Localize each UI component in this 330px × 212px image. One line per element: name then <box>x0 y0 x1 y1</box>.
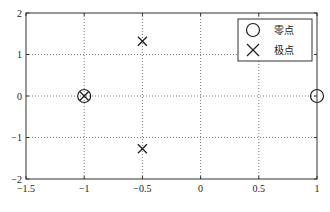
pole-zero-chart: −1.5−1−0.500.51−2−1012 零点极点 <box>0 0 330 212</box>
pole-marker-icon <box>138 37 147 46</box>
y-tick-label: 2 <box>17 8 22 19</box>
x-tick-label: −1.5 <box>17 183 35 194</box>
x-tick-label: 0 <box>198 183 203 194</box>
legend-label: 零点 <box>274 25 294 36</box>
x-tick-label: 1 <box>315 183 320 194</box>
x-tick-label: −0.5 <box>133 183 151 194</box>
y-tick-label: 0 <box>17 91 22 102</box>
x-tick-label: 0.5 <box>253 183 266 194</box>
pole-marker-icon <box>80 92 89 101</box>
y-tick-label: −1 <box>11 132 22 143</box>
y-tick-label: −2 <box>11 174 22 185</box>
y-tick-label: 1 <box>17 49 22 60</box>
legend: 零点极点 <box>238 19 312 61</box>
legend-label: 极点 <box>274 44 294 56</box>
x-tick-label: −1 <box>79 183 90 194</box>
